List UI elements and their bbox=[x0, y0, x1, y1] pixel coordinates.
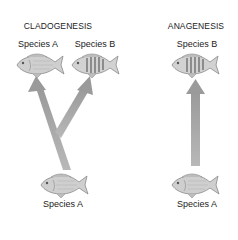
cladogenesis-ancestor-fish-icon bbox=[41, 174, 88, 198]
cladogenesis-species-b-fish-icon bbox=[72, 54, 119, 78]
cladogenesis-branch-arrows bbox=[28, 76, 93, 170]
anagenesis-species-b-fish-icon bbox=[172, 54, 219, 78]
anagenesis-arrow bbox=[186, 79, 205, 166]
cladogenesis-species-a-fish-icon bbox=[17, 54, 64, 78]
anagenesis-ancestor-fish-icon bbox=[172, 174, 219, 198]
